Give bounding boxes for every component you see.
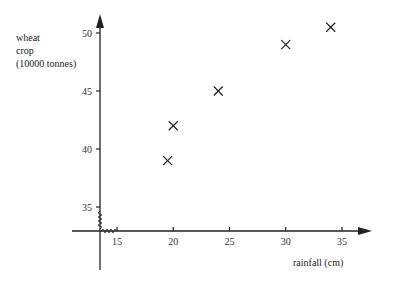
y-tick-label: 45 [82, 86, 92, 97]
y-axis-arrow-icon [96, 14, 104, 28]
data-point-x-marker-icon [326, 23, 335, 32]
y-tick-label: 35 [82, 202, 92, 213]
y-tick-label: 50 [82, 28, 92, 39]
y-ticks: 35404550 [82, 28, 100, 213]
x-axis-arrow-icon [358, 227, 372, 235]
x-tick-label: 35 [337, 236, 347, 247]
x-tick-label: 15 [112, 236, 122, 247]
y-axis-break-icon [98, 211, 102, 229]
axes [72, 14, 372, 270]
y-tick-label: 40 [82, 144, 92, 155]
data-point-x-marker-icon [163, 156, 172, 165]
data-point-x-marker-icon [214, 87, 223, 96]
x-tick-label: 30 [281, 236, 291, 247]
x-tick-label: 25 [225, 236, 235, 247]
data-point-x-marker-icon [281, 40, 290, 49]
x-tick-label: 20 [168, 236, 178, 247]
data-points [163, 23, 335, 165]
scatter-plot: 1520253035 35404550 [0, 0, 395, 281]
data-point-x-marker-icon [169, 121, 178, 130]
x-ticks: 1520253035 [112, 227, 347, 247]
